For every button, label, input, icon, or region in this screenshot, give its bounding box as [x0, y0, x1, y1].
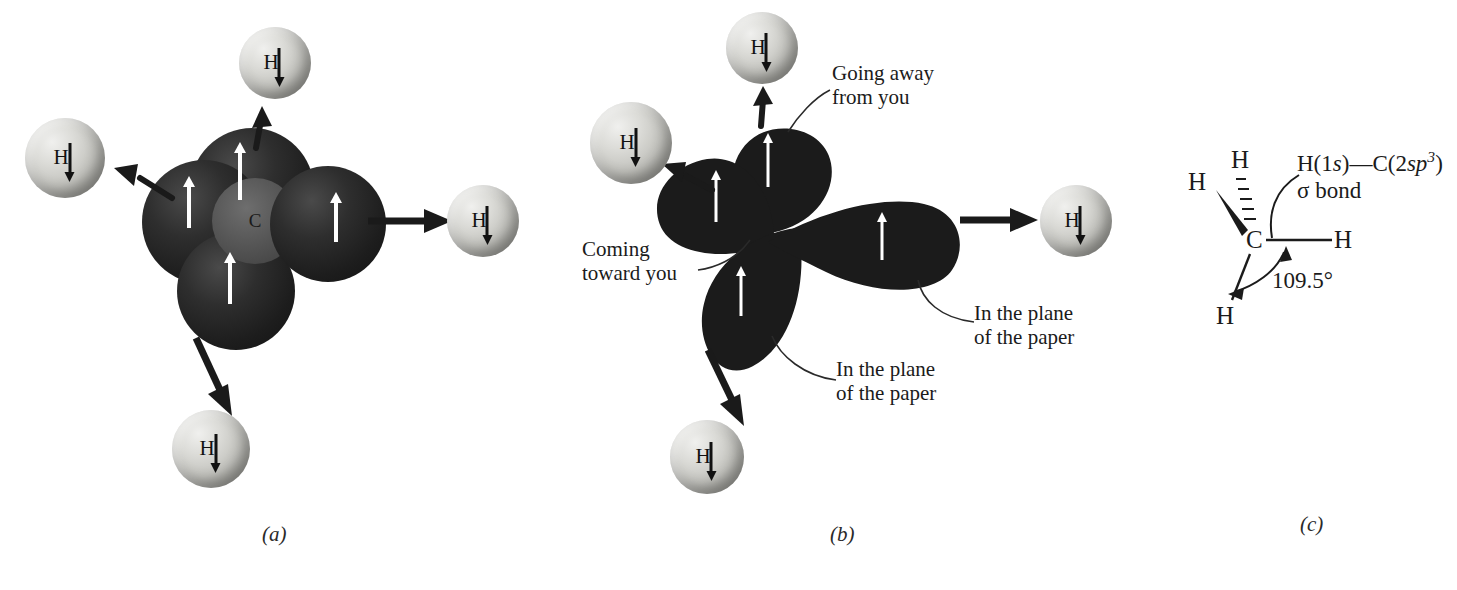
sigma-c-close: )	[1435, 151, 1443, 176]
spin-down-arrow	[710, 442, 713, 472]
hydrogen-atom-right: H	[1040, 185, 1112, 257]
hydrogen-atom-left: H	[590, 102, 672, 184]
methane-wedge-dash-structure: C H H H H 109.5° H(1s)—C(2sp3) σ bond	[1150, 0, 1457, 590]
bond-arrow-bottom	[700, 348, 760, 430]
leader-line-in-plane-right	[916, 278, 976, 326]
panel-b-caption: (b)	[830, 522, 855, 547]
hydrogen-atom-left: H	[25, 118, 105, 198]
sigma-bond-annotation: H(1s)—C(2sp3) σ bond	[1297, 148, 1443, 204]
hydrogen-label: H	[471, 210, 486, 231]
hydrogen-label: H	[695, 446, 710, 467]
spin-up-arrow-top	[233, 142, 247, 200]
label-coming-toward: Coming toward you	[582, 238, 677, 285]
hydrogen-bottom-label: H	[1216, 302, 1234, 330]
bond-angle-label: 109.5°	[1272, 268, 1333, 294]
dashed-bond	[1236, 179, 1256, 219]
label-coming-toward-line1: Coming	[582, 238, 677, 262]
hydrogen-atom-bottom: H	[670, 420, 744, 494]
sigma-dash: —	[1349, 151, 1372, 176]
wedge-bond	[1216, 190, 1248, 236]
label-going-away-line2: from you	[832, 86, 934, 110]
leader-line-in-plane-bottom	[770, 334, 838, 384]
carbon-atom-label: C	[1246, 226, 1263, 254]
panel-a-overlapping-orbitals: C	[0, 0, 530, 590]
sigma-c-exponent: 3	[1427, 148, 1435, 165]
label-in-plane-bottom-line2: of the paper	[836, 382, 936, 406]
hydrogen-label: H	[1064, 210, 1079, 231]
spin-down-arrow	[1079, 206, 1082, 236]
leader-line-going-away	[786, 86, 832, 134]
spin-up-arrow-going-away	[762, 133, 774, 187]
hydrogen-atom-top: H	[726, 12, 798, 84]
sigma-c-part: C(2	[1372, 151, 1407, 176]
hydrogen-label: H	[199, 438, 214, 459]
hydrogen-atom-top: H	[239, 27, 311, 99]
hydrogen-label: H	[750, 37, 765, 58]
hydrogen-dashed-label: H	[1231, 146, 1249, 174]
panel-b-sp3-hybrid-orbitals: H H H H	[530, 0, 1150, 590]
bond-arrow-left	[100, 150, 180, 200]
label-coming-toward-line2: toward you	[582, 262, 677, 286]
hydrogen-label: H	[53, 147, 68, 168]
label-in-plane-bottom-line1: In the plane	[836, 358, 936, 382]
hydrogen-label: H	[619, 132, 634, 153]
label-in-plane-right-line2: of the paper	[974, 326, 1074, 350]
spin-up-arrow-left	[182, 176, 196, 228]
sigma-bond-text: σ bond	[1297, 177, 1443, 204]
carbon-label: C	[249, 210, 262, 232]
label-in-plane-bottom: In the plane of the paper	[836, 358, 936, 405]
sigma-bond-formula: H(1s)—C(2sp3)	[1297, 148, 1443, 177]
label-in-plane-right: In the plane of the paper	[974, 302, 1074, 349]
hydrogen-atom-right: H	[447, 185, 519, 257]
bond-arrow-top	[745, 80, 789, 130]
panel-c-caption: (c)	[1300, 512, 1323, 537]
spin-down-arrow	[634, 128, 637, 158]
bond-arrow-top	[240, 100, 290, 150]
methane-bonds-svg	[1150, 0, 1457, 420]
label-going-away-line1: Going away	[832, 62, 934, 86]
bond-arrow-bottom	[188, 336, 248, 420]
spin-down-arrow	[486, 206, 489, 236]
panel-a-caption: (a)	[262, 522, 287, 547]
label-going-away: Going away from you	[832, 62, 934, 109]
sigma-leader-line	[1271, 175, 1299, 238]
spin-up-arrow-in-plane-right	[876, 212, 888, 260]
spin-up-arrow-right	[329, 192, 343, 242]
leader-line-coming-toward	[696, 238, 752, 274]
sigma-h-orbital: s	[1333, 151, 1342, 176]
spin-down-arrow	[214, 434, 217, 464]
spin-down-arrow	[278, 48, 281, 78]
bond-arrow-right	[368, 208, 454, 234]
label-in-plane-right-line1: In the plane	[974, 302, 1074, 326]
panel-c-lewis-structure: C H H H H 109.5° H(1s)—C(2sp3) σ bond (c…	[1150, 0, 1457, 590]
angle-arrowhead-right	[1280, 246, 1292, 262]
sigma-c-orbital: sp	[1407, 151, 1427, 176]
spin-down-arrow	[765, 33, 768, 63]
hydrogen-wedge-label: H	[1188, 168, 1206, 196]
sigma-h-part: H(1	[1297, 151, 1333, 176]
methane-hybridization-figure: C	[0, 0, 1457, 590]
hydrogen-label: H	[263, 52, 278, 73]
hydrogen-right-label: H	[1334, 226, 1352, 254]
bond-arrow-right	[960, 207, 1040, 233]
spin-up-arrow-bottom	[223, 252, 237, 304]
spin-down-arrow	[68, 143, 71, 173]
hydrogen-atom-bottom: H	[172, 410, 250, 488]
